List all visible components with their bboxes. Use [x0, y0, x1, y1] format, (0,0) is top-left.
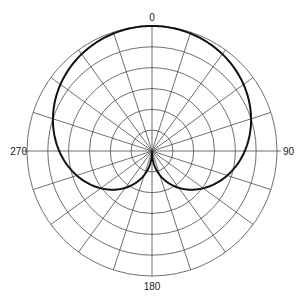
grid-spoke	[152, 151, 225, 252]
grid-spoke	[152, 78, 253, 151]
angle-label-90: 90	[283, 146, 295, 157]
grid-spoke	[51, 78, 152, 151]
grid-spoke	[152, 32, 191, 151]
grid-spoke	[79, 151, 152, 252]
angle-label-180: 180	[144, 281, 161, 292]
grid-spoke	[152, 151, 191, 270]
grid-spoke	[152, 50, 225, 151]
grid-spoke	[33, 112, 152, 151]
grid-spoke	[152, 112, 271, 151]
grid-spoke	[113, 32, 152, 151]
polar-chart: 0 90 180 270	[0, 0, 304, 302]
angle-label-270: 270	[10, 146, 27, 157]
grid-spoke	[79, 50, 152, 151]
grid-spoke	[113, 151, 152, 270]
angle-label-0: 0	[149, 12, 155, 23]
